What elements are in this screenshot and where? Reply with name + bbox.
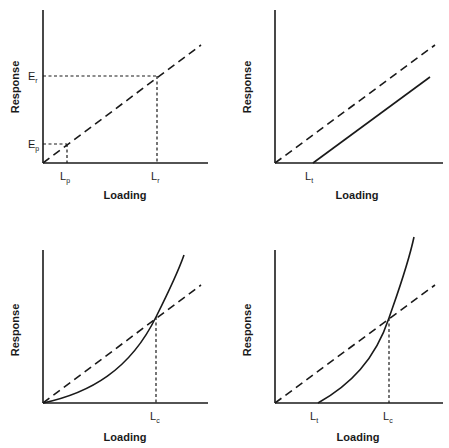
linear-reference-line xyxy=(275,285,435,403)
x-axis-title: Loading xyxy=(104,431,147,443)
linear-reference-line xyxy=(43,285,201,403)
tick-lc: Lc xyxy=(150,410,160,424)
nonlinear-response-curve xyxy=(43,255,184,403)
panel-top-left: Er Ep Lp Lr Loading Response xyxy=(9,10,208,201)
tick-lr: Lr xyxy=(151,170,160,184)
x-axis-title: Loading xyxy=(337,431,380,443)
y-axis-title: Response xyxy=(9,61,21,114)
tick-er: Er xyxy=(28,70,38,84)
linear-reference-line xyxy=(275,45,435,163)
panel-bottom-left: Lc Loading Response xyxy=(9,250,208,443)
tick-lc: Lc xyxy=(383,410,393,424)
panel-top-right: Lt Loading Response xyxy=(241,10,443,201)
tick-lt: Lt xyxy=(305,170,313,184)
threshold-nonlinear-response-curve xyxy=(318,237,414,403)
panel-bottom-right: Lt Lc Loading Response xyxy=(241,237,443,443)
tick-ep: Ep xyxy=(28,138,39,153)
y-axis-title: Response xyxy=(241,61,253,114)
y-axis-title: Response xyxy=(9,304,21,357)
x-axis-title: Loading xyxy=(104,189,147,201)
threshold-response-line xyxy=(313,77,430,163)
figure-canvas: Er Ep Lp Lr Loading Response Lt Loading … xyxy=(0,0,449,448)
y-axis-title: Response xyxy=(241,304,253,357)
tick-lp: Lp xyxy=(60,170,70,185)
tick-lt: Lt xyxy=(310,410,318,424)
x-axis-title: Loading xyxy=(336,189,379,201)
